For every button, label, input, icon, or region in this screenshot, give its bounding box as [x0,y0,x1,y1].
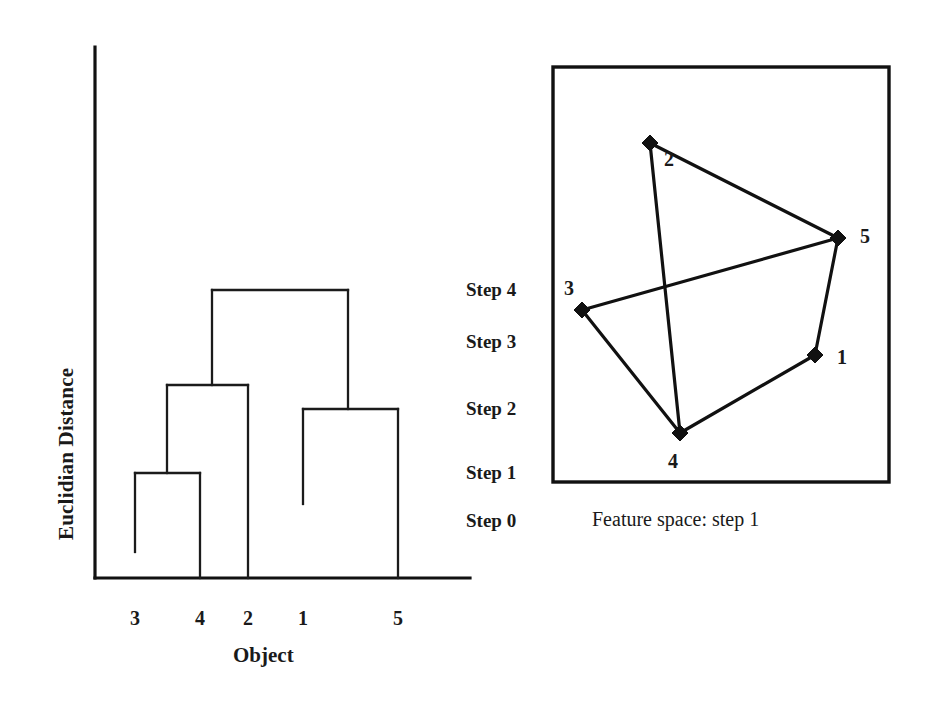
feature-point-label-5: 5 [860,226,870,246]
leaf-label-3: 3 [120,608,150,628]
edge-4-1 [680,355,815,433]
feature-point-marker-5 [830,230,846,246]
edge-3-4 [582,310,680,433]
step-label-step-3: Step 3 [466,332,516,351]
leaf-label-5: 5 [383,608,413,628]
leaf-label-1: 1 [288,608,318,628]
feature-space-caption: Feature space: step 1 [592,509,759,529]
edge-5-1 [815,238,838,355]
y-axis-label: Euclidian Distance [56,368,77,540]
step-label-step-1: Step 1 [466,463,516,482]
feature-point-marker-1 [807,347,823,363]
feature-point-label-2: 2 [664,149,674,169]
step-label-step-2: Step 2 [466,399,516,418]
leaf-label-4: 4 [185,608,215,628]
feature-space-box [553,67,889,482]
step-label-step-4: Step 4 [466,280,516,299]
feature-point-label-3: 3 [564,278,574,298]
step-label-step-0: Step 0 [466,511,516,530]
edge-5-3 [582,238,838,310]
edge-2-5 [650,143,838,238]
feature-point-marker-2 [642,135,658,151]
feature-point-label-1: 1 [837,347,847,367]
feature-point-label-4: 4 [668,451,678,471]
leaf-label-2: 2 [233,608,263,628]
clustering-figure: Euclidian Distance Object 34215 Step 4St… [0,0,930,723]
x-axis-label: Object [233,645,294,666]
